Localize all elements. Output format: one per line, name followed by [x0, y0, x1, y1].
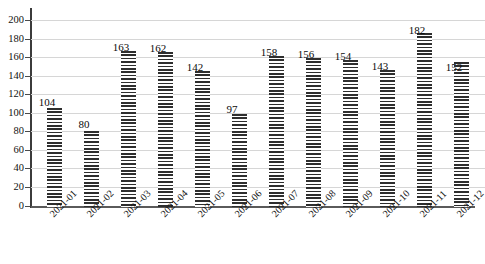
- bar-value-label: 97: [212, 104, 252, 115]
- bar-chart: 200 180 160 140 120 100 80 60 40 20 0: [0, 0, 485, 264]
- bar[interactable]: [380, 70, 395, 207]
- bar[interactable]: [84, 131, 99, 207]
- y-tick-label: 80: [0, 126, 24, 137]
- bar-value-label: 182: [397, 25, 437, 36]
- bar-value-label: 156: [286, 49, 326, 60]
- y-tick-label: 40: [0, 163, 24, 174]
- bar-value-label: 154: [323, 51, 363, 62]
- y-tick-label: 60: [0, 145, 24, 156]
- bar[interactable]: [158, 52, 173, 207]
- bar-value-label: 162: [138, 43, 178, 54]
- bar-value-label: 158: [249, 47, 289, 58]
- bar[interactable]: [343, 60, 358, 207]
- bar[interactable]: [195, 71, 210, 207]
- x-axis-tick-labels: 2021-01 2021-02 2021-03 2021-04 2021-05 …: [0, 208, 485, 264]
- bar[interactable]: [306, 58, 321, 207]
- bar[interactable]: [121, 51, 136, 207]
- y-tick-label: 100: [0, 108, 24, 119]
- gridline: [31, 20, 485, 21]
- y-tick-label: 120: [0, 89, 24, 100]
- bar[interactable]: [269, 56, 284, 207]
- y-tick-label: 200: [0, 15, 24, 26]
- bar-value-label: 152: [434, 62, 474, 73]
- bar-value-label: 104: [27, 97, 67, 108]
- bar[interactable]: [417, 33, 432, 207]
- plot-area: [31, 8, 485, 207]
- y-tick-label: 180: [0, 34, 24, 45]
- y-tick-label: 20: [0, 182, 24, 193]
- bar[interactable]: [47, 108, 62, 207]
- bar[interactable]: [232, 114, 247, 207]
- bar-value-label: 80: [64, 119, 104, 130]
- y-tick-label: 160: [0, 52, 24, 63]
- bar-value-label: 143: [360, 61, 400, 72]
- bar[interactable]: [454, 62, 469, 207]
- bar-value-label: 163: [101, 42, 141, 53]
- bar-value-label: 142: [175, 62, 215, 73]
- y-tick-label: 140: [0, 71, 24, 82]
